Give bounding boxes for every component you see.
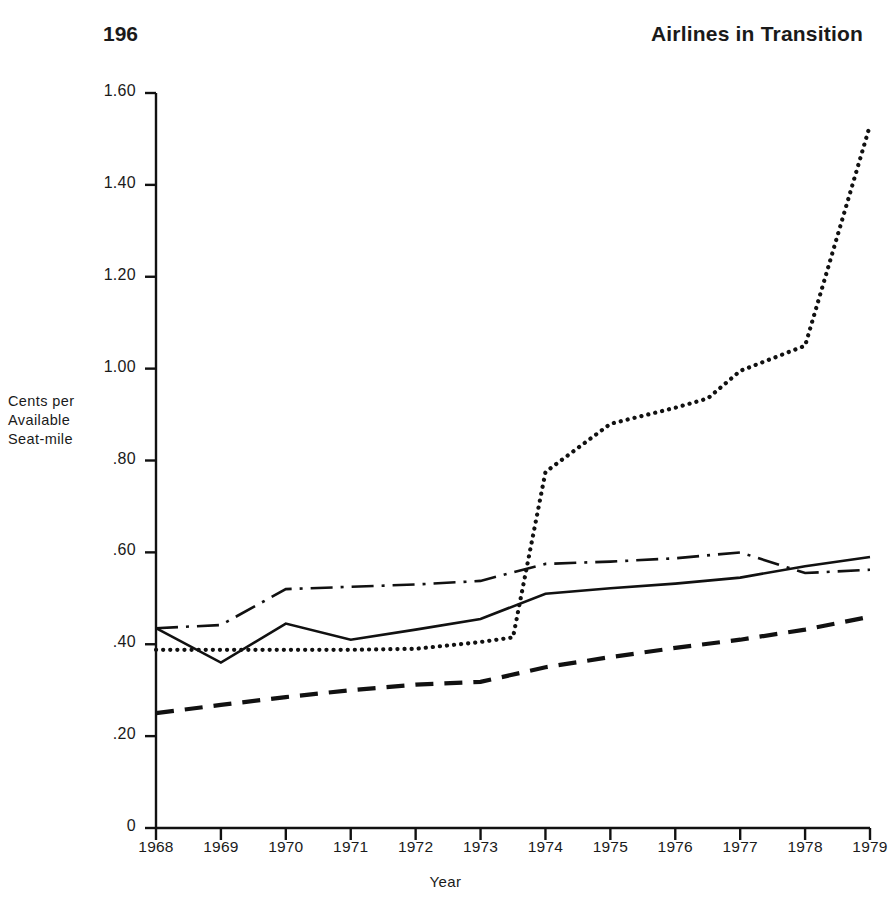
x-axis-tick-label: 1977 <box>708 838 772 856</box>
series-line-solid-series <box>156 557 870 663</box>
y-axis-tick-label: .80 <box>76 450 136 468</box>
x-axis-tick-label: 1973 <box>449 838 513 856</box>
series-line-dash-dot-series <box>156 552 870 628</box>
y-axis-tick-label: 1.40 <box>76 174 136 192</box>
y-axis-tick-label: 1.60 <box>76 82 136 100</box>
x-axis-tick-label: 1969 <box>189 838 253 856</box>
x-axis-tick-label: 1976 <box>643 838 707 856</box>
y-axis-tick-label: 1.20 <box>76 266 136 284</box>
x-axis-tick-label: 1975 <box>578 838 642 856</box>
x-axis-tick-label: 1968 <box>124 838 188 856</box>
y-axis-tick-label: 0 <box>76 817 136 835</box>
x-axis-tick-label: 1971 <box>319 838 383 856</box>
x-axis-tick-label: 1974 <box>513 838 577 856</box>
chart-page: 196 Airlines in Transition Cents per Ava… <box>0 0 891 908</box>
y-axis-tick-label: 1.00 <box>76 358 136 376</box>
x-axis-tick-label: 1978 <box>773 838 837 856</box>
y-axis-tick-label: .60 <box>76 541 136 559</box>
x-axis-tick-label: 1972 <box>384 838 448 856</box>
x-axis-tick-label: 1979 <box>838 838 891 856</box>
y-axis-tick-label: .40 <box>76 633 136 651</box>
x-axis-tick-label: 1970 <box>254 838 318 856</box>
series-line-dotted-series <box>156 125 870 650</box>
y-axis-tick-label: .20 <box>76 725 136 743</box>
